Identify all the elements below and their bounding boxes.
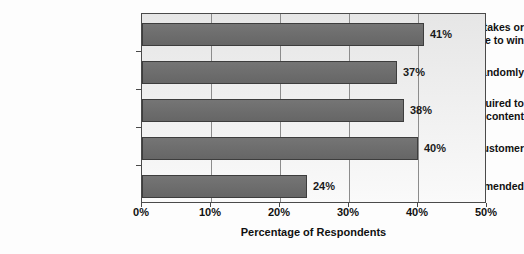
bar-friend-recommended (142, 175, 307, 198)
x-axis-title: Percentage of Respondents (141, 226, 486, 238)
chart-figure: Sweepstakes or chance to win Found site … (0, 0, 524, 254)
x-tick-label-10: 10% (199, 206, 221, 218)
x-tick-label-20: 20% (268, 206, 290, 218)
bar-value-sweepstakes: 41% (430, 23, 452, 46)
bar-value-friend-recommended: 24% (313, 175, 335, 198)
bar-already-a-customer (142, 137, 418, 160)
x-tick-label-0: 0% (133, 206, 149, 218)
plot-area: 41% 37% 38% 40% 24% (141, 13, 486, 203)
bar-email-required (142, 99, 404, 122)
bar-value-email-required: 38% (410, 99, 432, 122)
bar-found-site-randomly (142, 61, 397, 84)
bar-value-found-site-randomly: 37% (403, 61, 425, 84)
bar-sweepstakes (142, 23, 424, 46)
x-tick-label-30: 30% (337, 206, 359, 218)
x-tick-label-40: 40% (406, 206, 428, 218)
bar-value-already-a-customer: 40% (424, 137, 446, 160)
x-tick-label-50: 50% (475, 206, 497, 218)
